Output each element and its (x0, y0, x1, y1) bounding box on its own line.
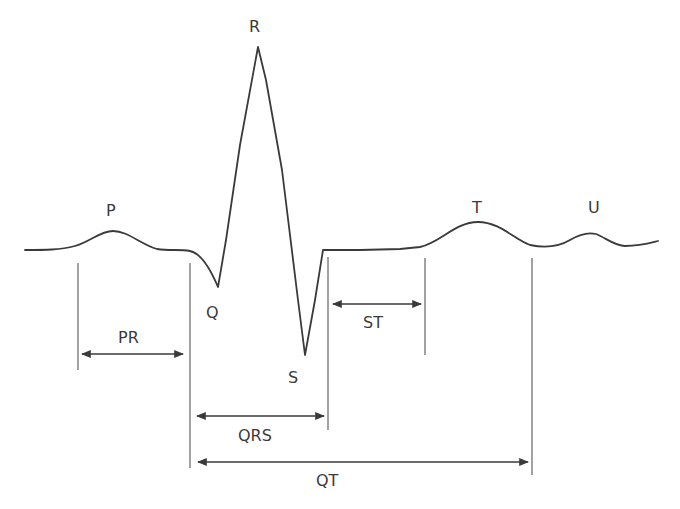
wave-label-p: P (106, 201, 116, 220)
interval-label-pr: PR (118, 328, 139, 347)
interval-label-st: ST (363, 313, 383, 332)
interval-label-qt: QT (316, 471, 339, 490)
wave-label-s: S (288, 368, 298, 387)
ecg-diagram: P R Q S T U PR ST QRS QT (0, 0, 680, 509)
interval-label-qrs: QRS (238, 426, 272, 445)
wave-label-q: Q (206, 303, 219, 322)
wave-label-u: U (588, 198, 600, 217)
ecg-trace (25, 47, 658, 355)
wave-label-t: T (471, 198, 482, 217)
wave-label-r: R (249, 17, 260, 36)
